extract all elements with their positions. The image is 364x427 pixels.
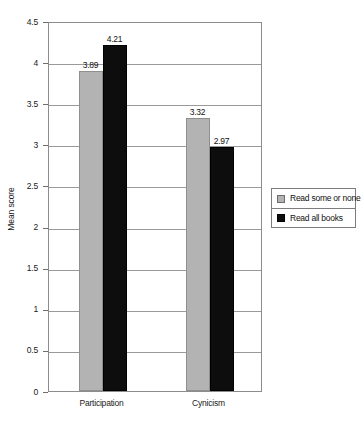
- legend-label: Read some or none: [290, 194, 360, 203]
- y-tick-label: 0.5: [4, 346, 38, 355]
- legend-label: Read all books: [290, 214, 343, 223]
- y-tick-label: 2: [4, 223, 38, 232]
- y-tick-label: 4: [4, 59, 38, 68]
- y-tick-label: 1: [4, 305, 38, 314]
- legend-item-0[interactable]: Read some or none: [272, 189, 355, 208]
- y-tick-label: 3.5: [4, 100, 38, 109]
- legend-swatch-icon: [277, 214, 285, 222]
- bar-cynicism-series-1: [210, 147, 234, 391]
- plot-area: 3.894.213.322.97: [48, 22, 262, 392]
- bar-participation-series-0: [79, 71, 103, 391]
- legend-swatch-icon: [277, 195, 285, 203]
- y-tick-label: 1.5: [4, 264, 38, 273]
- y-tick-label: 3: [4, 141, 38, 150]
- y-tick-label: 2.5: [4, 182, 38, 191]
- bar-value-label: 2.97: [202, 137, 242, 146]
- x-tick-label-cynicism: Cynicism: [159, 398, 259, 408]
- bar-participation-series-1: [103, 45, 127, 391]
- x-tick-label-participation: Participation: [52, 398, 152, 408]
- y-tick-label: 0: [4, 388, 38, 397]
- y-tick-mark: [43, 392, 48, 393]
- bar-value-label: 3.32: [178, 108, 218, 117]
- bar-chart: Mean score 00.511.522.533.544.5 3.894.21…: [0, 0, 364, 427]
- legend: Read some or noneRead all books: [271, 188, 356, 228]
- bar-cynicism-series-0: [186, 118, 210, 391]
- y-tick-label: 4.5: [4, 18, 38, 27]
- legend-item-1[interactable]: Read all books: [272, 208, 355, 227]
- bar-value-label: 4.21: [95, 35, 135, 44]
